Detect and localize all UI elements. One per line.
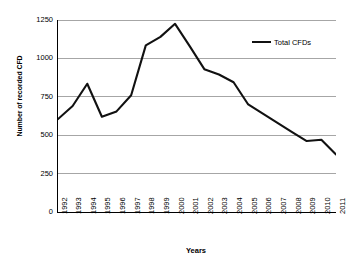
x-axis-tick-labels: 1992199319941995199619971998199920002001… [57,214,335,248]
x-axis-title: Years [57,246,335,256]
chart-legend: Total CFDs [252,36,311,48]
y-axis-title: Number of recorded CFD [14,0,26,196]
x-tick-label: 1999 [163,180,171,214]
x-tick-label: 2008 [295,180,303,214]
y-tick-label: 500 [26,131,53,139]
x-tick-label: 2006 [265,180,273,214]
x-tick-label: 2007 [280,180,288,214]
x-tick-label: 1994 [90,180,98,214]
x-tick-label: 2004 [236,180,244,214]
y-tick-label: 0 [26,208,53,216]
x-tick-label: 2010 [324,180,332,214]
x-tick-label: 1992 [61,180,69,214]
x-tick-label: 1993 [75,180,83,214]
y-tick-label: 250 [26,170,53,178]
x-tick-label: 1997 [134,180,142,214]
legend-line-swatch [252,41,271,43]
x-tick-label: 1998 [148,180,156,214]
x-tick-label: 2011 [339,180,346,214]
x-tick-label: 2002 [207,180,215,214]
x-tick-label: 1996 [119,180,127,214]
x-tick-label: 2000 [178,180,186,214]
y-axis-tick-labels: 025050075010001250 [26,0,53,262]
x-tick-label: 2001 [192,180,200,214]
x-tick-label: 2003 [221,180,229,214]
x-tick-label: 2005 [251,180,259,214]
legend-label-total-cfds: Total CFDs [274,38,311,47]
line-chart: Number of recorded CFD 02505007501000125… [0,0,346,262]
y-tick-label: 750 [26,93,53,101]
y-tick-label: 1250 [26,16,53,24]
x-tick-label: 2009 [309,180,317,214]
x-tick-label: 1995 [104,180,112,214]
y-tick-label: 1000 [26,54,53,62]
